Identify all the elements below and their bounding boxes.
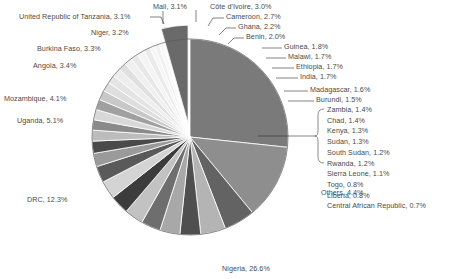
slice-label-burkina-faso: Burkina Faso, 3.3%: [37, 45, 101, 54]
slice-label-ghana: Ghana, 2.2%: [238, 23, 281, 32]
slice-label-india: India, 1.7%: [300, 73, 337, 82]
slice-label-united-republic-of-tanzania: United Republic of Tanzania, 3.1%: [19, 13, 130, 22]
slice-label-niger: Niger, 3.2%: [91, 29, 129, 38]
pie-chart-figure: Mali, 3.1%Côte d'Ivoire, 3.0%Cameroon, 2…: [0, 0, 449, 279]
slice-label-nigeria: Nigeria, 26.6%: [222, 265, 270, 274]
slice-label-cameroon: Cameroon, 2.7%: [226, 13, 281, 22]
slice-label-uganda: Uganda, 5.1%: [17, 117, 63, 126]
slice-label-benin: Benin, 2.0%: [246, 33, 285, 42]
slice-label-drc: DRC, 12.3%: [27, 196, 67, 205]
bracket-label-togo: Togo, 0.8%: [327, 180, 426, 191]
slice-label-guinea: Guinea, 1.8%: [284, 43, 328, 52]
slice-label-malawi: Malawi, 1.7%: [288, 53, 331, 62]
slice-label-madagascar: Madagascar, 1.6%: [310, 86, 370, 95]
slice-label-c-te-d-ivoire: Côte d'Ivoire, 3.0%: [210, 3, 271, 12]
slice-label-angola: Angola, 3.4%: [33, 62, 76, 71]
bracket-label-liberia: Liberia, 0.8%: [327, 191, 426, 202]
bracket-label-sierra-leone: Sierra Leone, 1.1%: [327, 169, 426, 180]
bracket-label-sudan: Sudan, 1.3%: [327, 137, 426, 148]
slice-label-ethiopia: Ethiopia, 1.7%: [296, 63, 343, 72]
slice-label-mali: Mali, 3.1%: [153, 3, 187, 12]
pie-slice-nigeria[interactable]: [190, 39, 288, 147]
leader-right-5: [228, 38, 234, 44]
bracket-label-chad: Chad, 1.4%: [327, 116, 426, 127]
leader-right-3: [219, 28, 226, 35]
bracket-label-south-sudan: South Sudan, 1.2%: [327, 148, 426, 159]
bracket-label-rwanda: Rwanda, 1.2%: [327, 159, 426, 170]
leader-right-1: [208, 18, 213, 26]
bracket-brace: [315, 109, 324, 163]
bracket-label-central-african-republic: Central African Republic, 0.7%: [327, 201, 426, 212]
leader-tanzania-b: [161, 17, 164, 24]
bracket-label-group: Zambia, 1.4%Chad, 1.4%Kenya, 1.3%Sudan, …: [327, 105, 426, 212]
bracket-label-zambia: Zambia, 1.4%: [327, 105, 426, 116]
slice-label-burundi: Burundi, 1.5%: [316, 96, 362, 105]
slice-label-mozambique: Mozambique, 4.1%: [4, 95, 66, 104]
bracket-label-kenya: Kenya, 1.3%: [327, 126, 426, 137]
